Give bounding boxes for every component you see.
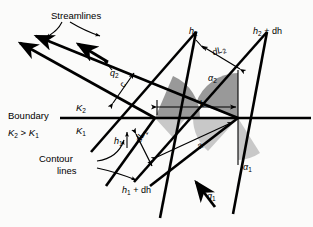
h1-plus-dh-rest: + dh (131, 185, 151, 195)
streamlines-leader-right (70, 22, 100, 36)
h1-subscript: 1 (119, 140, 123, 147)
h2-subscript: 2 (194, 30, 198, 37)
k2-region-label: K2 (76, 103, 86, 113)
k1-subscript: 1 (82, 130, 86, 137)
segment-b-label: b (200, 100, 205, 109)
figure-canvas: Streamlines Boundary K2 > K1 K2 K1 q2 q1… (0, 0, 313, 227)
k1-region-label: K1 (76, 126, 86, 136)
streamline-lower (20, 43, 155, 118)
k-relation-operator: > (18, 127, 29, 138)
q2-label: q2 (110, 69, 119, 78)
streamline-upper-k1 (150, 118, 238, 186)
h1-plus-dh-subscript: 1 (127, 189, 131, 196)
alpha2-label: α2 (208, 74, 217, 83)
boundary-label: Boundary (8, 111, 49, 121)
k-relation-label: K2 > K1 (8, 128, 39, 138)
alpha1-subscript: 1 (248, 166, 252, 173)
h2-plus-dh-rest: + dh (262, 26, 282, 36)
contour-lines-label-line2: lines (57, 166, 77, 176)
angle-sector-upper-left (155, 76, 200, 118)
streamlines-label: Streamlines (51, 11, 101, 21)
q2-subscript: 2 (115, 72, 119, 79)
k2-subscript: 2 (82, 107, 86, 114)
h2-label: h2 (189, 27, 198, 36)
streamlines-leader-left (46, 22, 62, 38)
k-relation-k2-subscript: 2 (14, 132, 18, 139)
q1-subscript: 1 (212, 195, 216, 202)
h2-leader (196, 40, 204, 49)
contour-lines-label-line1: Contour (39, 154, 73, 164)
alpha1-label: α1 (243, 163, 252, 172)
k-relation-k1-subscript: 1 (35, 132, 39, 139)
alpha2-subscript: 2 (213, 77, 217, 84)
h1-label: h1 (114, 137, 123, 146)
h2-plus-dh-subscript: 2 (258, 30, 262, 37)
angle-sector-alpha2 (196, 73, 238, 118)
h2-plus-dh-label: h2 + dh (253, 27, 282, 36)
h1-plus-dh-label: h1 + dh (122, 186, 151, 195)
q1-label: q1 (207, 192, 216, 201)
